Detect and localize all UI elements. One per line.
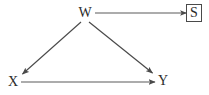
edge-layer <box>0 0 209 95</box>
edge-w-to-x <box>23 22 82 74</box>
node-s-label: S <box>190 6 198 20</box>
node-x: X <box>6 75 20 89</box>
causal-diagram: W S X Y <box>0 0 209 95</box>
node-y: Y <box>156 74 170 88</box>
edge-w-to-y <box>89 22 153 73</box>
node-w: W <box>78 6 92 20</box>
node-s-box: S <box>186 4 202 22</box>
